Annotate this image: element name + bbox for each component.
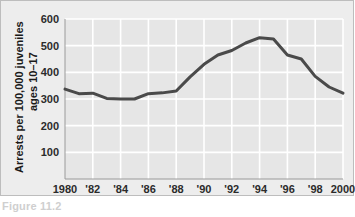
x-axis-tick-label: '94 <box>252 183 268 195</box>
figure-panel: 100200300400500600 1980'82'84'86'88'90'9… <box>0 0 354 196</box>
x-axis-tick-label: '92 <box>224 183 239 195</box>
figure-caption: Figure 11.2 <box>2 200 62 216</box>
x-axis-tick-labels: 1980'82'84'86'88'90'92'94'96'982000 <box>53 183 355 195</box>
x-axis-tick-label: '96 <box>280 183 295 195</box>
y-axis-tick-labels: 100200300400500600 <box>41 13 59 158</box>
y-axis-title: Arrests per 100,000 juveniles ages 10–17 <box>13 21 39 173</box>
y-axis-title-line-1: Arrests per 100,000 juveniles <box>13 21 25 173</box>
x-axis-tick-label: 1980 <box>53 183 77 195</box>
y-axis-tick-label: 600 <box>41 13 59 25</box>
x-axis-tick-label: '84 <box>113 183 129 195</box>
y-axis-title-line-2: ages 10–17 <box>27 52 39 111</box>
x-axis-tick-label: '98 <box>308 183 323 195</box>
y-axis-tick-label: 400 <box>41 66 59 78</box>
x-axis-tick-label: '86 <box>141 183 156 195</box>
x-axis-tick-label: 2000 <box>331 183 355 195</box>
x-axis-tick-label: '82 <box>85 183 100 195</box>
y-axis-tick-label: 200 <box>41 120 59 132</box>
y-axis-tick-label: 300 <box>41 93 59 105</box>
y-axis-tick-label: 500 <box>41 40 59 52</box>
y-axis-tick-label: 100 <box>41 146 59 158</box>
x-axis-tick-label: '90 <box>197 183 212 195</box>
juvenile-arrest-rate-line-chart: 100200300400500600 1980'82'84'86'88'90'9… <box>1 1 355 197</box>
x-axis-tick-label: '88 <box>169 183 184 195</box>
